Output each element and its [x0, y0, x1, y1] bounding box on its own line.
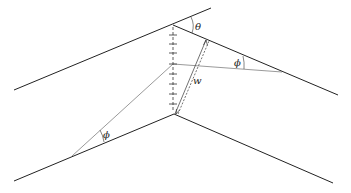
phi-upper-label: ϕ: [234, 57, 241, 68]
lower-left-line: [14, 114, 174, 181]
upper-phi-line: [173, 64, 282, 72]
width-arrow: [175, 40, 209, 114]
dislocation-column: [169, 27, 177, 112]
lower-right-line: [174, 114, 333, 183]
diagram-canvas: θ ϕ ϕ w: [0, 0, 351, 193]
phi-lower-label: ϕ: [103, 129, 110, 140]
width-label: w: [193, 75, 202, 86]
lower-phi-line: [72, 64, 173, 156]
phi-upper-arc: [243, 56, 244, 69]
upper-left-line: [14, 8, 211, 90]
lower-boundary: [14, 114, 333, 183]
theta-label: θ: [195, 21, 201, 32]
theta-arc: [191, 17, 193, 33]
upper-boundary: [14, 8, 338, 95]
